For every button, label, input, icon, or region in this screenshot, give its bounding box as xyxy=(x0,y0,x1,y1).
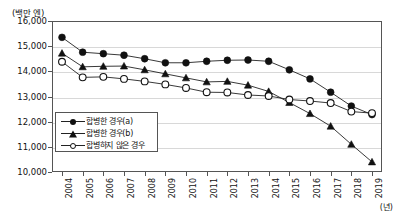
x-axis-tick-label: 2018 xyxy=(355,178,363,198)
legend-item-series-b: 합병한 경우(b) xyxy=(60,128,153,139)
x-axis-tick-mark xyxy=(331,172,332,176)
y-axis-tick-label: 12,000 xyxy=(17,117,47,126)
filled-circle-icon xyxy=(60,116,86,127)
gridline xyxy=(53,98,381,99)
legend-label-series-c: 합병하지 않은 경우 xyxy=(86,140,145,151)
x-axis-tick-label: 2017 xyxy=(335,178,343,198)
x-axis-tick-label: 2005 xyxy=(87,178,95,198)
y-axis-tick-label: 11,000 xyxy=(17,143,47,152)
x-axis-tick-mark xyxy=(83,172,84,176)
gridline xyxy=(53,47,381,48)
y-axis-tick-label: 15,000 xyxy=(17,42,47,51)
legend-item-series-c: 합병하지 않은 경우 xyxy=(60,140,153,151)
x-axis-tick-mark xyxy=(227,172,228,176)
x-axis-tick-label: 2004 xyxy=(66,178,74,198)
legend-item-series-a: 합병한 경우(a) xyxy=(60,116,153,127)
x-axis-tick-label: 2014 xyxy=(273,178,281,198)
legend-label-series-b: 합병한 경우(b) xyxy=(86,128,133,139)
filled-triangle-icon xyxy=(60,128,86,139)
x-axis-tick-label: 2019 xyxy=(376,178,384,198)
x-axis-tick-mark xyxy=(310,172,311,176)
x-axis-tick-label: 2015 xyxy=(293,178,301,198)
y-axis-tick-mark xyxy=(48,172,52,173)
x-axis-tick-mark xyxy=(165,172,166,176)
x-axis-tick-mark xyxy=(124,172,125,176)
x-axis-tick-label: 2008 xyxy=(149,178,157,198)
chart-legend: 합병한 경우(a) 합병한 경우(b) 합병하지 않은 경우 xyxy=(55,112,158,152)
x-axis-tick-label: 2013 xyxy=(252,178,260,198)
legend-label-series-a: 합병한 경우(a) xyxy=(86,116,133,127)
x-axis-tick-label: 2010 xyxy=(190,178,198,198)
x-axis-unit-label: (년) xyxy=(380,201,393,212)
x-axis-tick-mark xyxy=(207,172,208,176)
x-axis-tick-mark xyxy=(62,172,63,176)
x-axis-tick-mark xyxy=(103,172,104,176)
x-axis-tick-label: 2016 xyxy=(314,178,322,198)
x-axis-tick-mark xyxy=(269,172,270,176)
x-axis-tick-label: 2006 xyxy=(107,178,115,198)
chart-root: (백만 엔) 10,00011,00012,00013,00014,00015,… xyxy=(0,0,399,215)
x-axis-tick-mark xyxy=(351,172,352,176)
y-axis-tick-label: 13,000 xyxy=(17,92,47,101)
x-axis-tick-label: 2011 xyxy=(211,178,219,198)
open-circle-icon xyxy=(60,140,86,151)
x-axis-tick-mark xyxy=(372,172,373,176)
x-axis-tick-label: 2009 xyxy=(169,178,177,198)
y-axis-tick-label: 10,000 xyxy=(17,168,47,177)
y-axis-tick-label: 16,000 xyxy=(17,17,47,26)
x-axis-tick-label: 2007 xyxy=(128,178,136,198)
x-axis-tick-label: 2012 xyxy=(231,178,239,198)
x-axis-tick-mark xyxy=(145,172,146,176)
x-axis-tick-mark xyxy=(289,172,290,176)
gridline xyxy=(53,72,381,73)
y-axis-tick-label: 14,000 xyxy=(17,67,47,76)
x-axis-tick-mark xyxy=(186,172,187,176)
x-axis-tick-mark xyxy=(248,172,249,176)
y-axis-tick-group: 10,00011,00012,00013,00014,00015,00016,0… xyxy=(0,0,50,215)
